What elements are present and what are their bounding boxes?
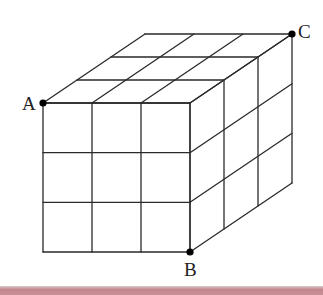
point-a-marker	[39, 99, 46, 106]
side-depth-line	[190, 183, 292, 252]
side-depth-line	[190, 133, 292, 202]
point-a-label: A	[22, 93, 36, 114]
top-depth-line	[190, 34, 292, 103]
top-depth-line	[92, 34, 194, 103]
point-b-marker	[186, 248, 193, 255]
cube-grid-lines	[43, 34, 292, 252]
top-depth-line	[43, 34, 145, 103]
top-depth-line	[141, 34, 243, 103]
point-c-label: C	[298, 21, 311, 42]
point-b-label: B	[184, 259, 197, 280]
point-c-marker	[288, 30, 295, 37]
cube-diagram: A B C	[0, 0, 323, 295]
bottom-border-strip	[0, 286, 323, 295]
side-depth-line	[190, 84, 292, 153]
